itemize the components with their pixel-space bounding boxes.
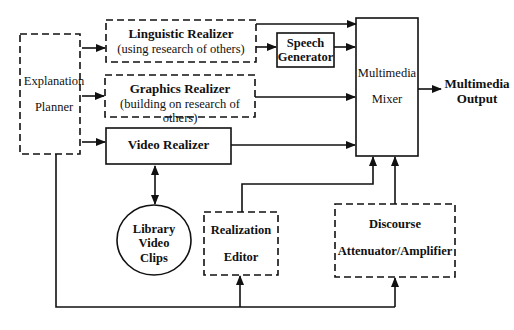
speech-generator-label: Speech Generator [277, 36, 334, 65]
library-line2: Video [117, 236, 191, 250]
library-video-clips-label: Library Video Clips [117, 222, 191, 265]
multimedia-mixer-line2: Mixer [356, 92, 418, 106]
video-realizer-title: Video Realizer [106, 138, 231, 153]
diagram-canvas [0, 0, 514, 330]
multimedia-output-line2: Output [440, 92, 514, 107]
speech-generator-line2: Generator [277, 50, 334, 64]
speech-generator-line1: Speech [277, 36, 334, 50]
discourse-attenuator-label: Discourse Attenuator/Amplifier [335, 217, 455, 259]
linguistic-realizer-subtitle: (using research of others) [106, 42, 256, 56]
graphics-realizer-title: Graphics Realizer [105, 82, 255, 97]
multimedia-mixer-label: Multimedia Mixer [356, 66, 418, 107]
multimedia-output-label: Multimedia Output [440, 77, 514, 107]
realization-editor-line1: Realization [204, 223, 278, 237]
linguistic-realizer-label: Linguistic Realizer (using research of o… [106, 27, 256, 56]
realization-editor-label: Realization Editor [204, 223, 278, 265]
discourse-line1: Discourse [335, 217, 455, 231]
explanation-planner-line2: Planner [20, 100, 88, 114]
discourse-line2: Attenuator/Amplifier [335, 244, 455, 258]
realization-editor-line2: Editor [204, 250, 278, 264]
graphics-realizer-label: Graphics Realizer (building on research … [105, 82, 255, 126]
library-line1: Library [117, 222, 191, 236]
multimedia-output-line1: Multimedia [440, 77, 514, 92]
graphics-realizer-subtitle: (building on research of others) [105, 97, 255, 126]
multimedia-mixer-line1: Multimedia [356, 66, 418, 80]
linguistic-realizer-title: Linguistic Realizer [106, 27, 256, 42]
explanation-planner-label: Explanation Planner [20, 74, 88, 115]
explanation-planner-line1: Explanation [20, 74, 88, 88]
library-line3: Clips [117, 251, 191, 265]
